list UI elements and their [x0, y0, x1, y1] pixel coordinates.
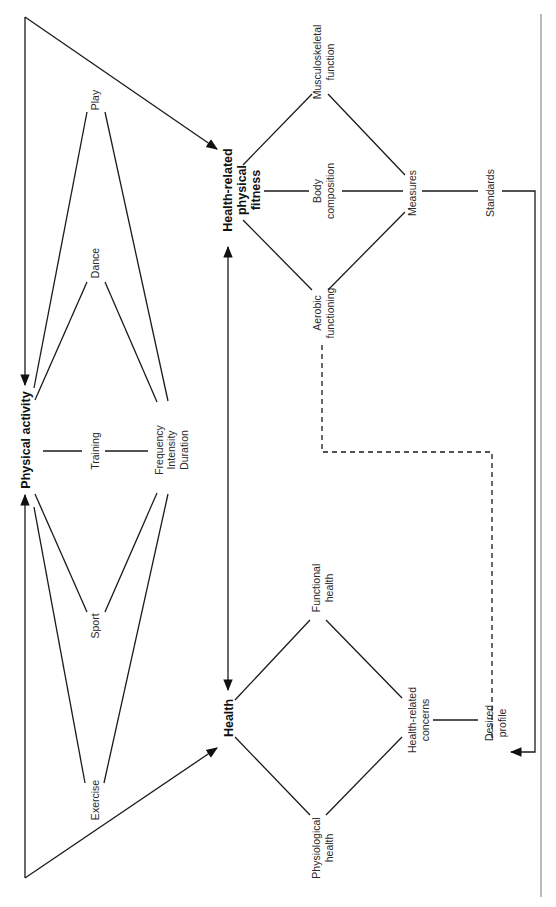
arrow-standards-to-profile — [502, 191, 535, 752]
node-exercise: Exercise — [89, 780, 101, 820]
node-functional-health-1: Functional — [310, 564, 322, 612]
node-aerobic-2: functioning — [324, 287, 336, 338]
node-standards: Standards — [484, 169, 496, 217]
node-physical-activity: Physical activity — [19, 391, 33, 488]
node-measures: Measures — [406, 170, 418, 216]
node-fitness-line2: physical — [235, 165, 249, 215]
node-duration: Duration — [178, 430, 190, 470]
node-desired-profile-2: profile — [496, 709, 508, 738]
node-desired-profile-1: Desired — [483, 705, 495, 741]
node-health-concerns-1: Health-related — [406, 687, 418, 753]
node-fitness-line1: Health-related — [221, 148, 235, 231]
node-sport: Sport — [89, 613, 101, 638]
dashed-aerobic-to-profile — [322, 345, 492, 738]
activity-lines — [34, 112, 168, 783]
node-training: Training — [89, 432, 101, 470]
node-fitness-line3: fitness — [249, 170, 263, 210]
node-physiological-health-1: Physiological — [310, 817, 322, 878]
node-body-composition-2: composition — [324, 163, 336, 219]
node-physiological-health-2: health — [323, 834, 335, 863]
node-health: Health — [222, 699, 236, 737]
health-lines — [235, 620, 478, 815]
node-body-composition-1: Body — [311, 178, 323, 203]
arrow-pa-to-health — [25, 748, 217, 878]
node-musculoskeletal-1: Musculoskeletal — [311, 25, 323, 100]
node-aerobic-1: Aerobic — [311, 295, 323, 331]
diagram-canvas: Physical activity Health-related physica… — [0, 0, 556, 907]
node-play: Play — [89, 89, 101, 110]
node-functional-health-2: health — [323, 574, 335, 603]
node-health-concerns-2: concerns — [419, 699, 431, 742]
outer-flow-arrows — [25, 17, 228, 878]
node-musculoskeletal-2: function — [324, 43, 336, 80]
node-dance: Dance — [89, 248, 101, 279]
arrow-pa-to-fitness — [25, 17, 217, 149]
node-intensity: Intensity — [165, 430, 177, 470]
node-frequency: Frequency — [153, 424, 165, 474]
